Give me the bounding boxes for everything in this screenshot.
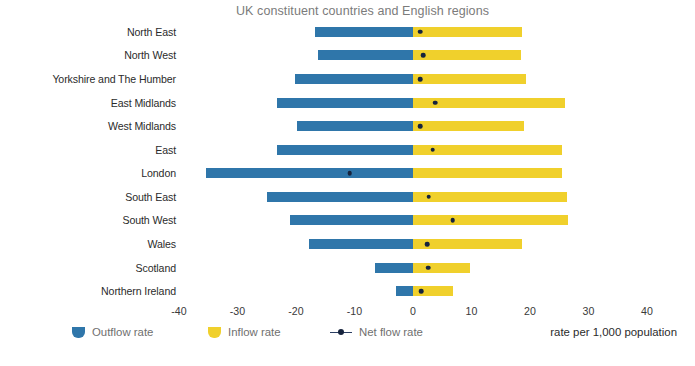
outflow-bar <box>267 192 413 202</box>
net-flow-marker <box>348 171 353 176</box>
category-label-east-midlands: East Midlands <box>111 97 176 109</box>
category-label-south-west: South West <box>122 214 176 226</box>
legend-item-net-flow-rate[interactable]: Net flow rate <box>330 326 423 338</box>
outflow-swatch-icon <box>72 327 85 338</box>
legend-label: Net flow rate <box>359 326 423 338</box>
outflow-bar <box>297 121 413 131</box>
legend-item-inflow-rate[interactable]: Inflow rate <box>208 326 281 338</box>
inflow-bar <box>413 74 526 84</box>
migration-flow-chart: UK constituent countries and English reg… <box>0 0 695 366</box>
x-tick-label: -10 <box>347 305 362 317</box>
chart-row: Wales <box>0 232 695 256</box>
inflow-swatch-icon <box>208 327 221 338</box>
net-flow-marker <box>431 147 436 152</box>
x-tick-label: -30 <box>230 305 245 317</box>
net-flow-marker <box>425 242 430 247</box>
net-flow-marker-icon <box>330 327 352 338</box>
chart-row: South East <box>0 185 695 209</box>
category-label-north-east: North East <box>127 26 176 38</box>
inflow-bar <box>413 263 470 273</box>
category-label-scotland: Scotland <box>136 262 176 274</box>
category-label-east: East <box>155 144 176 156</box>
chart-row: Yorkshire and The Humber <box>0 67 695 91</box>
outflow-bar <box>277 98 413 108</box>
category-label-yorkshire-and-the-humber: Yorkshire and The Humber <box>52 73 176 85</box>
outflow-bar <box>396 286 413 296</box>
legend-item-outflow-rate[interactable]: Outflow rate <box>72 326 153 338</box>
inflow-bar <box>413 168 562 178</box>
net-flow-marker <box>418 77 423 82</box>
inflow-bar <box>413 215 568 225</box>
inflow-bar <box>413 145 562 155</box>
inflow-bar <box>413 192 567 202</box>
inflow-bar <box>413 50 521 60</box>
category-label-north-west: North West <box>124 49 176 61</box>
category-label-south-east: South East <box>125 191 176 203</box>
net-flow-marker <box>426 265 431 270</box>
chart-row: London <box>0 162 695 186</box>
net-flow-marker <box>426 195 431 200</box>
net-flow-marker <box>421 53 426 58</box>
category-label-west-midlands: West Midlands <box>108 120 176 132</box>
chart-row: East Midlands <box>0 91 695 115</box>
outflow-bar <box>290 215 413 225</box>
inflow-bar <box>413 121 524 131</box>
outflow-bar <box>318 50 413 60</box>
net-flow-marker <box>433 100 438 105</box>
chart-row: Northern Ireland <box>0 279 695 303</box>
x-tick-label: 40 <box>641 305 653 317</box>
outflow-bar <box>206 168 413 178</box>
legend-label: Outflow rate <box>92 326 153 338</box>
chart-row: North West <box>0 44 695 68</box>
outflow-bar <box>295 74 413 84</box>
legend-label: Inflow rate <box>228 326 281 338</box>
chart-row: East <box>0 138 695 162</box>
chart-title: UK constituent countries and English reg… <box>0 4 695 18</box>
category-label-wales: Wales <box>147 238 176 250</box>
x-axis: -40-30-20-10010203040 <box>0 305 695 321</box>
x-tick-label: -20 <box>288 305 303 317</box>
outflow-bar <box>375 263 413 273</box>
outflow-bar <box>277 145 413 155</box>
x-tick-label: 0 <box>410 305 416 317</box>
net-flow-marker <box>418 30 423 35</box>
chart-row: West Midlands <box>0 114 695 138</box>
category-label-northern-ireland: Northern Ireland <box>101 285 176 297</box>
plot-area: North EastNorth WestYorkshire and The Hu… <box>0 20 695 303</box>
net-flow-marker <box>419 289 424 294</box>
x-tick-label: -40 <box>171 305 186 317</box>
chart-row: Scotland <box>0 256 695 280</box>
chart-row: North East <box>0 20 695 44</box>
chart-row: South West <box>0 209 695 233</box>
outflow-bar <box>309 239 413 249</box>
net-flow-marker <box>418 124 423 129</box>
x-tick-label: 10 <box>466 305 478 317</box>
outflow-bar <box>315 27 413 37</box>
category-label-london: London <box>141 167 176 179</box>
inflow-bar <box>413 27 522 37</box>
x-tick-label: 20 <box>524 305 536 317</box>
net-flow-marker <box>450 218 455 223</box>
axis-unit-note: rate per 1,000 population <box>550 326 677 338</box>
x-tick-label: 30 <box>583 305 595 317</box>
chart-legend: rate per 1,000 population Outflow rateIn… <box>0 326 695 346</box>
